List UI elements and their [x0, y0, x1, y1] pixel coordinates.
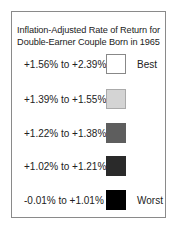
- legend-entry: +1.22% to +1.38%: [12, 123, 165, 145]
- legend-swatch: [106, 190, 126, 210]
- legend-swatch: [106, 54, 126, 74]
- legend-swatch: [106, 156, 126, 176]
- legend-entry: +1.02% to +1.21%: [12, 156, 165, 178]
- legend-rank-best: Best: [137, 59, 157, 70]
- legend-rank-worst: Worst: [137, 195, 163, 206]
- legend-range: +1.56% to +2.39%: [24, 59, 106, 70]
- legend-title-line-2: Double-Earner Couple Born in 1965: [12, 36, 165, 48]
- legend-entry: +1.39% to +1.55%: [12, 89, 165, 111]
- legend-title: Inflation-Adjusted Rate of Return for Do…: [12, 24, 165, 48]
- legend-entry: -0.01% to +1.01% Worst: [12, 190, 165, 212]
- legend-range: -0.01% to +1.01%: [24, 195, 104, 206]
- legend-title-line-1: Inflation-Adjusted Rate of Return for: [12, 24, 165, 36]
- legend-entry: +1.56% to +2.39% Best: [12, 54, 165, 76]
- legend-range: +1.39% to +1.55%: [24, 94, 106, 105]
- legend-range: +1.02% to +1.21%: [24, 161, 106, 172]
- legend-swatch: [106, 123, 126, 143]
- legend-range: +1.22% to +1.38%: [24, 128, 106, 139]
- legend-box: Inflation-Adjusted Rate of Return for Do…: [11, 11, 166, 218]
- legend-swatch: [106, 89, 126, 109]
